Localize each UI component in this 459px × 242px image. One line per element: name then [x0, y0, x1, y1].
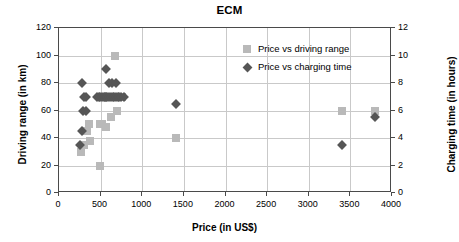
x-axis-tick-label: 1000	[131, 199, 151, 209]
gridline-vertical	[184, 28, 185, 191]
x-axis-title: Price (in US$)	[58, 222, 391, 233]
chart-title: ECM	[0, 4, 459, 16]
gridline-vertical	[142, 28, 143, 191]
x-axis-tick	[100, 192, 101, 196]
x-axis-tick	[266, 192, 267, 196]
y-axis-right-tick-label: 6	[398, 105, 403, 115]
data-point-diamond	[171, 99, 181, 109]
gridline-horizontal	[59, 138, 390, 139]
y-axis-right-tick	[391, 165, 395, 166]
x-axis-tick	[141, 192, 142, 196]
legend-item-label: Price vs charging time	[258, 61, 351, 72]
data-point-diamond	[101, 64, 111, 74]
y-axis-right-tick-label: 8	[398, 77, 403, 87]
x-axis-tick	[225, 192, 226, 196]
y-axis-right-tick-label: 10	[398, 50, 408, 60]
legend-item-label: Price vs driving range	[258, 43, 349, 54]
x-axis-tick-label: 2000	[214, 199, 234, 209]
y-axis-right-tick	[391, 137, 395, 138]
legend-item[interactable]: Price vs driving range	[241, 41, 351, 56]
gridline-vertical	[226, 28, 227, 191]
y-axis-right-tick-label: 2	[398, 160, 403, 170]
chart-legend: Price vs driving rangePrice vs charging …	[241, 41, 351, 77]
y-axis-left-tick	[54, 27, 58, 28]
y-axis-right-tick-label: 0	[398, 187, 403, 197]
y-axis-left-title: Driving range (in km)	[17, 40, 28, 190]
data-point-square	[86, 137, 94, 145]
y-axis-left-tick	[54, 82, 58, 83]
x-axis-tick-label: 2500	[256, 199, 276, 209]
x-axis-tick	[308, 192, 309, 196]
x-axis-tick-label: 3500	[339, 199, 359, 209]
data-point-square	[111, 52, 119, 60]
x-axis-tick-label: 0	[55, 199, 60, 209]
y-axis-left-tick	[54, 110, 58, 111]
y-axis-left-tick-label: 120	[20, 22, 51, 32]
y-axis-right-tick	[391, 55, 395, 56]
data-point-square	[85, 120, 93, 128]
data-point-square	[96, 162, 104, 170]
legend-swatch	[243, 63, 253, 73]
x-axis-tick	[391, 192, 392, 196]
y-axis-right-tick-label: 4	[398, 132, 403, 142]
data-point-square	[113, 107, 121, 115]
x-axis-tick	[58, 192, 59, 196]
x-axis-tick-label: 1500	[173, 199, 193, 209]
y-axis-right-title: Charging time (in hours)	[446, 35, 457, 195]
legend-swatch	[243, 45, 251, 53]
data-point-square	[172, 134, 180, 142]
data-point-diamond	[77, 78, 87, 88]
x-axis-tick	[183, 192, 184, 196]
gridline-horizontal	[59, 166, 390, 167]
x-axis-tick-label: 500	[92, 199, 107, 209]
x-axis-tick	[349, 192, 350, 196]
y-axis-left-tick	[54, 165, 58, 166]
legend-square-icon	[241, 42, 254, 55]
data-point-square	[102, 123, 110, 131]
y-axis-right-tick-label: 12	[398, 22, 408, 32]
x-axis-tick-label: 4000	[381, 199, 401, 209]
y-axis-right-tick	[391, 110, 395, 111]
chart-container: ECM 020406080100120024681012050010001500…	[0, 0, 459, 242]
y-axis-left-tick	[54, 55, 58, 56]
legend-diamond-icon	[241, 60, 254, 73]
y-axis-left-tick	[54, 137, 58, 138]
data-point-square	[338, 107, 346, 115]
x-axis-tick-label: 3000	[298, 199, 318, 209]
y-axis-right-tick	[391, 82, 395, 83]
data-point-diamond	[337, 140, 347, 150]
data-point-square	[107, 113, 115, 121]
y-axis-right-tick	[391, 27, 395, 28]
legend-item[interactable]: Price vs charging time	[241, 59, 351, 74]
